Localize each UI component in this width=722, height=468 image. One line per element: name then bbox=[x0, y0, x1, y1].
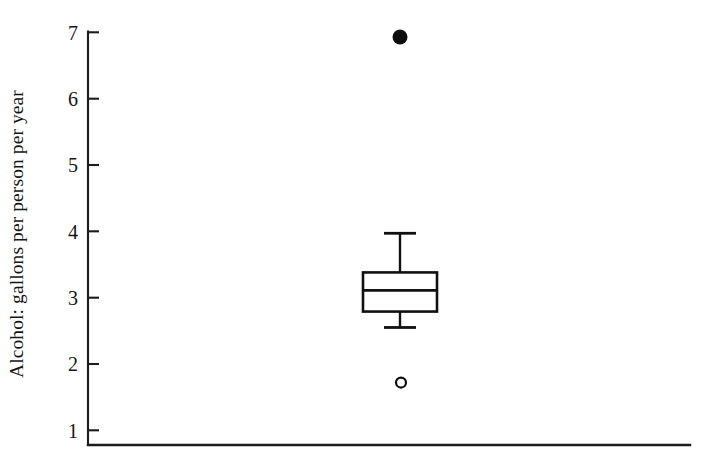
box-plot-series bbox=[363, 29, 437, 387]
plot-area: 7 6 5 4 3 2 1 bbox=[0, 0, 722, 468]
y-tick-label-7: 7 bbox=[68, 22, 78, 44]
y-tick-label-5: 5 bbox=[68, 154, 78, 176]
interquartile-box bbox=[363, 272, 437, 311]
y-tick-label-3: 3 bbox=[68, 287, 78, 309]
y-tick-label-6: 6 bbox=[68, 88, 78, 110]
boxplot-figure: Alcohol: gallons per person per year 7 6… bbox=[0, 0, 722, 468]
y-tick-label-2: 2 bbox=[68, 353, 78, 375]
outlier-point-high bbox=[393, 29, 408, 44]
y-tick-label-4: 4 bbox=[68, 221, 78, 243]
outlier-point-low bbox=[396, 378, 406, 388]
y-tick-label-1: 1 bbox=[68, 420, 78, 442]
